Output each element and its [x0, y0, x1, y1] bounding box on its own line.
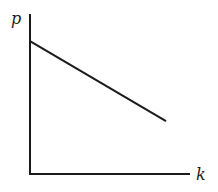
chart-svg: p k [0, 0, 218, 192]
x-axis-label: k [196, 165, 206, 184]
y-axis-label: p [11, 9, 21, 28]
series-line-p-of-k [30, 41, 166, 121]
chart-canvas: p k [0, 0, 218, 192]
